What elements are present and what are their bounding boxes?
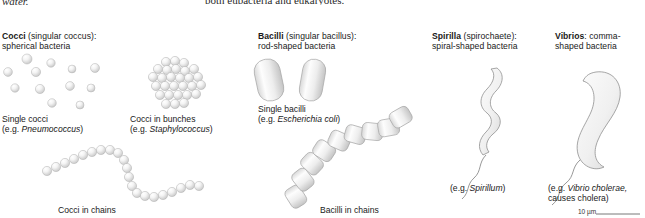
panel-heading-bacilli-rest: (singular bacillus): <box>284 31 357 41</box>
caption-cocci-in-bunches-prefix: (e.g. <box>130 124 150 134</box>
caption-vibrio-line3: causes cholera) <box>548 193 609 203</box>
caption-vibrio-prefix: (e.g. <box>548 183 568 193</box>
caption-spirillum-example: (e.g. Spirillum) <box>450 183 505 193</box>
caption-single-cocci-prefix: (e.g. <box>2 124 22 134</box>
panel-heading-spirilla-bold: Spirilla <box>432 31 461 41</box>
caption-spirillum-suffix: ) <box>503 183 506 193</box>
caption-vibrio-species: Vibrio cholerae, <box>568 183 628 193</box>
panel-heading-spirilla-line2: spiral-shaped bacteria <box>432 41 518 51</box>
panel-heading-bacilli: Bacilli (singular bacillus): rod-shaped … <box>258 31 356 52</box>
caption-single-bacilli-line1: Single bacilli <box>258 104 306 114</box>
caption-bacilli-in-chains-line1: Bacilli in chains <box>320 205 379 215</box>
panel-heading-bacilli-bold: Bacilli <box>258 31 284 41</box>
caption-spirillum-prefix: (e.g. <box>450 183 470 193</box>
panel-heading-bacilli-line2: rod-shaped bacteria <box>258 41 335 51</box>
caption-single-bacilli: Single bacilli (e.g. Escherichia coli) <box>258 104 340 125</box>
panel-heading-cocci-rest: (singular coccus): <box>26 31 97 41</box>
panel-heading-spirilla-rest: (spirochaete): <box>461 31 517 41</box>
body-text-water: water. <box>2 0 29 6</box>
panel-heading-vibrios: Vibrios: comma- shaped bacteria <box>555 31 621 52</box>
art-single-bacilli <box>252 57 328 103</box>
caption-single-cocci-line1: Single cocci <box>2 114 48 124</box>
caption-cocci-in-bunches: Cocci in bunches (e.g. Staphylococcus) <box>130 114 213 135</box>
caption-cocci-in-bunches-suffix: ) <box>210 124 213 134</box>
body-text-eukaryotes: both eubacteria and eukaryotes. <box>205 0 344 5</box>
caption-cocci-in-chains-line1: Cocci in chains <box>58 205 116 215</box>
art-single-cocci <box>4 54 100 109</box>
panel-heading-cocci-line2: spherical bacteria <box>2 41 70 51</box>
panel-heading-vibrios-bold: Vibrios <box>555 31 584 41</box>
panel-heading-cocci: Cocci (singular coccus): spherical bacte… <box>2 31 96 52</box>
panel-heading-vibrios-line2: shaped bacteria <box>555 41 617 51</box>
caption-single-bacilli-species: Escherichia coli <box>278 114 338 124</box>
caption-cocci-in-bunches-line1: Cocci in bunches <box>130 114 195 124</box>
caption-spirillum-species: Spirillum <box>470 183 503 193</box>
caption-single-cocci-species: Pneumococcus <box>22 124 81 134</box>
bacteria-shapes-figure: water. both eubacteria and eukaryotes. <box>0 0 645 218</box>
art-cocci-in-bunches <box>148 56 205 108</box>
art-spirillum <box>462 68 502 199</box>
caption-single-bacilli-prefix: (e.g. <box>258 114 278 124</box>
caption-single-cocci: Single cocci (e.g. Pneumococcus) <box>2 114 83 135</box>
caption-cocci-in-chains: Cocci in chains <box>58 205 116 215</box>
caption-single-bacilli-suffix: ) <box>337 114 340 124</box>
scale-bar-label: 10 µm <box>578 208 596 215</box>
caption-single-cocci-suffix: ) <box>80 124 83 134</box>
panel-heading-cocci-bold: Cocci <box>2 31 26 41</box>
caption-bacilli-in-chains: Bacilli in chains <box>320 205 379 215</box>
panel-heading-vibrios-rest: : comma- <box>584 31 620 41</box>
caption-vibrio-example: (e.g. Vibrio cholerae, causes cholera) <box>548 183 627 204</box>
panel-heading-spirilla: Spirilla (spirochaete): spiral-shaped ba… <box>432 31 518 52</box>
caption-cocci-in-bunches-species: Staphylococcus <box>150 124 210 134</box>
art-cocci-in-chains <box>42 145 203 201</box>
